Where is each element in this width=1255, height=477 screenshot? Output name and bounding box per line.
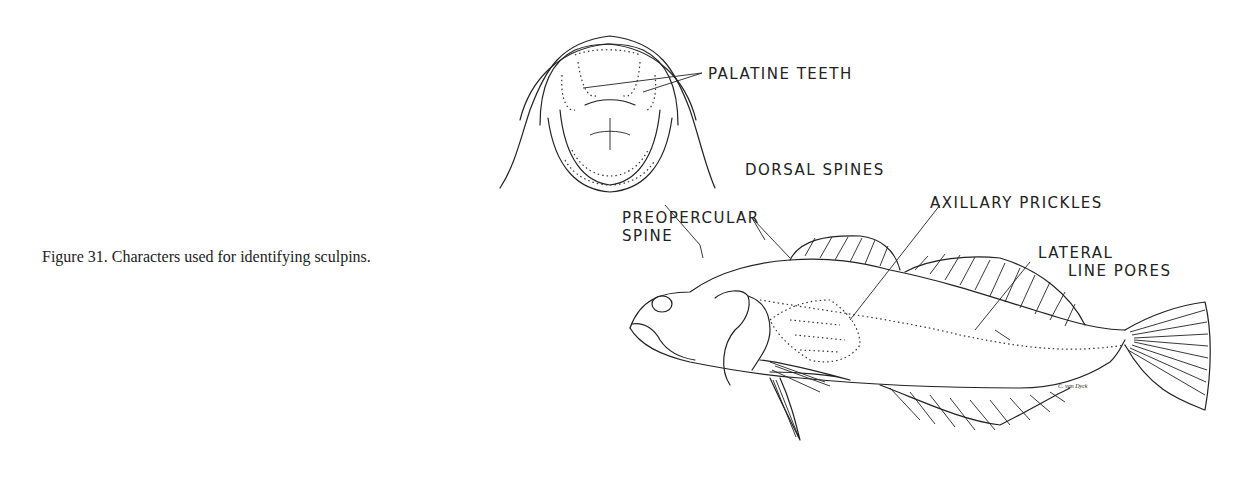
preopercular-spine-label-line2: SPINE — [622, 228, 673, 245]
lateral-line-pores-label-line2: LINE PORES — [1068, 263, 1172, 280]
palatine-teeth-label: PALATINE TEETH — [708, 66, 853, 83]
axillary-prickles-label: AXILLARY PRICKLES — [930, 195, 1103, 212]
mouth-ventral-view — [500, 36, 715, 192]
artist-signature: C. van Dyck — [1058, 378, 1088, 395]
figure-caption: Figure 31. Characters used for identifyi… — [42, 248, 371, 266]
dorsal-spines-label: DORSAL SPINES — [745, 162, 885, 179]
preopercular-spine-label-line1: PREOPERCULAR — [622, 210, 760, 227]
sculpin-lateral-view — [630, 205, 1210, 440]
lateral-line-pores-label-line1: LATERAL — [1038, 245, 1113, 262]
